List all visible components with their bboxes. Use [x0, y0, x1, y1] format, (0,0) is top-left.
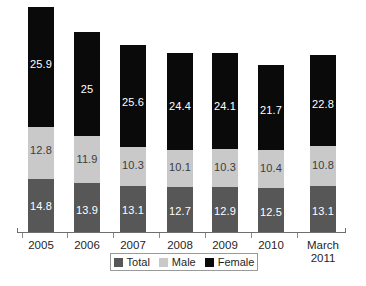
bar-value-male: 10.3: [212, 162, 238, 173]
bar-segment-male[interactable]: 12.8: [28, 127, 54, 179]
bar-segment-total[interactable]: 12.5: [258, 188, 284, 233]
bar-value-total: 13.1: [120, 205, 146, 216]
x-axis-tick: [67, 233, 68, 238]
legend-label: Female: [218, 257, 255, 268]
bar-value-total: 14.8: [28, 201, 54, 212]
x-axis-left-cap: [17, 228, 18, 233]
x-axis-label-line1: 2007: [120, 239, 146, 251]
bar-group-march-2011[interactable]: 22.8 10.8 13.1: [310, 55, 336, 233]
bar-value-male: 12.8: [28, 145, 54, 156]
x-axis-label-line1: 2005: [28, 239, 54, 251]
bar-value-total: 13.1: [310, 206, 336, 217]
x-axis-label-line1: March: [307, 239, 339, 251]
bar-group-2009[interactable]: 24.1 10.3 12.9: [212, 53, 238, 233]
bar-value-total: 12.5: [258, 207, 284, 218]
bar-segment-male[interactable]: 10.1: [167, 150, 193, 187]
legend-swatch-icon: [114, 258, 123, 267]
bar-segment-total[interactable]: 12.7: [167, 187, 193, 233]
bar-segment-total[interactable]: 12.9: [212, 187, 238, 233]
bar-value-female: 25: [74, 84, 100, 95]
bar-segment-total[interactable]: 14.8: [28, 179, 54, 233]
bar-segment-female[interactable]: 24.1: [212, 53, 238, 149]
bar-segment-female[interactable]: 21.7: [258, 65, 284, 150]
bar-segment-male[interactable]: 10.3: [120, 147, 146, 186]
x-axis-tick: [113, 233, 114, 238]
bar-segment-total[interactable]: 13.1: [120, 186, 146, 233]
bar-segment-male[interactable]: 10.3: [212, 149, 238, 187]
bar-segment-female[interactable]: 25.9: [28, 7, 54, 127]
bar-segment-male[interactable]: 11.9: [74, 136, 100, 183]
bar-segment-male[interactable]: 10.8: [310, 146, 336, 186]
x-axis-tick: [251, 233, 252, 238]
bar-segment-male[interactable]: 10.4: [258, 150, 284, 188]
bar-group-2006[interactable]: 25 11.9 13.9: [74, 32, 100, 233]
x-axis-label-line2: 2011: [293, 252, 353, 265]
bar-group-2008[interactable]: 24.4 10.1 12.7: [167, 53, 193, 233]
bar-value-female: 24.4: [167, 101, 193, 112]
bar-segment-total[interactable]: 13.1: [310, 186, 336, 233]
bar-value-male: 10.3: [120, 160, 146, 171]
x-axis-label-march-2011: March 2011: [293, 239, 353, 265]
x-axis-tick: [297, 233, 298, 238]
x-axis-tick: [159, 233, 160, 238]
bar-segment-female[interactable]: 25: [74, 32, 100, 136]
bar-value-male: 10.4: [258, 163, 284, 174]
x-axis-label-line1: 2009: [212, 239, 238, 251]
x-axis-label-2010: 2010: [241, 239, 301, 252]
plot-area: 25.9 12.8 14.8 25 11.9 13.9 25.6: [0, 0, 366, 233]
bar-value-male: 11.9: [74, 154, 100, 165]
bar-group-2007[interactable]: 25.6 10.3 13.1: [120, 45, 146, 233]
x-axis-tick: [22, 233, 23, 238]
bar-value-total: 13.9: [74, 205, 100, 216]
bar-segment-female[interactable]: 24.4: [167, 53, 193, 150]
x-axis-label-line1: 2008: [167, 239, 193, 251]
bar-value-male: 10.8: [310, 160, 336, 171]
bar-value-total: 12.9: [212, 206, 238, 217]
bar-segment-total[interactable]: 13.9: [74, 183, 100, 233]
bar-value-female: 24.1: [212, 101, 238, 112]
legend-item-male[interactable]: Male: [159, 257, 196, 268]
x-axis-tick: [205, 233, 206, 238]
legend-item-female[interactable]: Female: [205, 257, 255, 268]
x-axis-label-line1: 2010: [258, 239, 284, 251]
legend-label: Male: [172, 257, 196, 268]
bar-value-female: 21.7: [258, 105, 284, 116]
bar-value-female: 25.6: [120, 97, 146, 108]
x-axis-label-line1: 2006: [74, 239, 100, 251]
bar-group-2010[interactable]: 21.7 10.4 12.5: [258, 65, 284, 233]
x-axis-right-cap: [345, 228, 346, 233]
legend-swatch-icon: [205, 258, 214, 267]
legend: Total Male Female: [110, 253, 258, 271]
stacked-bar-chart: 25.9 12.8 14.8 25 11.9 13.9 25.6: [0, 0, 366, 286]
bar-value-male: 10.1: [167, 162, 193, 173]
bar-segment-female[interactable]: 22.8: [310, 55, 336, 146]
bar-group-2005[interactable]: 25.9 12.8 14.8: [28, 7, 54, 233]
bar-value-female: 22.8: [310, 99, 336, 110]
legend-label: Total: [127, 257, 150, 268]
bar-value-female: 25.9: [28, 59, 54, 70]
bar-value-total: 12.7: [167, 206, 193, 217]
legend-item-total[interactable]: Total: [114, 257, 150, 268]
legend-swatch-icon: [159, 258, 168, 267]
bar-segment-female[interactable]: 25.6: [120, 45, 146, 147]
